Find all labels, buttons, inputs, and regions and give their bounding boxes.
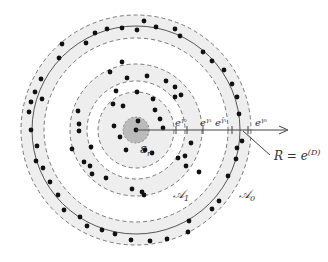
data-point [82,160,87,165]
data-point [112,124,117,129]
data-point [120,26,125,31]
data-point [217,199,222,204]
data-point [153,108,158,113]
data-point [34,159,39,164]
radius-label: R = e(D) [273,148,320,163]
data-point [77,129,82,134]
data-point [114,89,119,94]
data-point [77,122,82,127]
data-point [84,41,89,46]
data-point [210,207,215,212]
data-point [151,97,156,102]
data-point [187,219,192,224]
annulus-0-label: 𝒜0 [239,187,255,203]
data-point [173,27,178,32]
data-point [142,193,147,198]
data-point [76,109,81,114]
data-point [189,141,194,146]
data-point [56,193,61,198]
data-point [88,164,93,169]
data-point [158,117,163,122]
data-point [62,208,67,213]
data-point [29,100,34,105]
data-point [173,85,178,90]
data-point [164,79,169,84]
data-point [129,238,134,243]
annulus-diagram: εr eγ₂ eγ₁ eγ̃₁ eγ₀ R = e(D) 𝒜1 𝒜0 [0,0,328,262]
data-point [113,232,118,237]
data-point [60,42,65,47]
tick-label-gamma1-tilde: eγ̃₁ [215,116,227,128]
data-point [235,146,240,151]
data-point [111,102,116,107]
tick-label-gamma0: eγ₀ [255,116,268,128]
data-point [70,147,75,152]
data-point [48,180,53,185]
tick-label-gamma1: eγ₁ [200,116,212,128]
data-point [57,56,62,61]
data-point [40,97,45,102]
data-point [178,34,183,39]
data-point [125,76,130,81]
data-point [183,154,188,159]
data-point [154,25,159,30]
data-point [234,157,239,162]
data-point [124,148,129,153]
data-point [85,224,90,229]
data-point [135,28,140,33]
data-point [173,95,178,100]
data-point [27,110,32,115]
data-point [165,237,170,242]
data-point [135,90,140,95]
data-point [145,74,150,79]
data-point [176,156,181,161]
data-point [136,119,141,124]
data-point [201,50,206,55]
data-point [93,31,98,36]
data-point [35,144,40,149]
data-point [105,27,110,32]
data-point [186,230,191,235]
data-point [179,93,184,98]
data-point [230,82,235,87]
data-point [197,170,202,175]
data-point [33,90,38,95]
data-point [78,215,83,220]
data-point [235,95,240,100]
data-point [222,68,227,73]
data-point [130,187,135,192]
data-point [39,77,44,82]
data-point [118,135,123,140]
data-point [89,145,94,150]
data-point [184,164,189,169]
data-point [29,128,34,133]
data-point [100,228,105,233]
data-point [148,239,153,244]
data-point [121,104,126,109]
data-point [104,176,109,181]
data-point [41,166,46,171]
data-point [226,174,231,179]
data-point [90,172,95,177]
data-point [120,60,125,65]
data-point [237,112,242,117]
data-point [240,139,245,144]
data-point [108,70,113,75]
data-point [142,19,147,24]
annulus-1-label: 𝒜1 [173,187,189,203]
data-point [210,59,215,64]
